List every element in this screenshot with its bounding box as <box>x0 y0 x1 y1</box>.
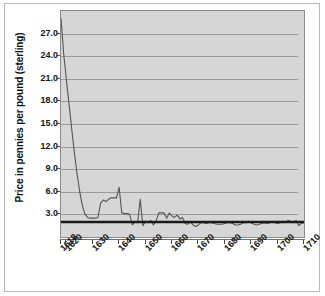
figure-container: Price in pennies per pound (sterling) 3.… <box>0 0 325 296</box>
y-axis-tick-label: 24.0 <box>26 51 58 60</box>
data-series-svg <box>61 11 304 237</box>
y-axis-tick-label: 3.0 <box>26 209 58 218</box>
plot-area <box>61 11 304 237</box>
x-axis-tick-labels: 1618162016301640165016601670168016901700… <box>60 240 310 290</box>
y-axis-tick-label: 21.0 <box>26 74 58 83</box>
y-axis-tick-label: 6.0 <box>26 187 58 196</box>
y-axis-tick-label: 18.0 <box>26 96 58 105</box>
y-axis-tick-label: 12.0 <box>26 142 58 151</box>
y-axis-tick-label: 27.0 <box>26 29 58 38</box>
plot-area-border <box>60 10 305 238</box>
y-axis-tick-labels: 3.06.09.012.015.018.021.024.027.0 <box>20 10 58 238</box>
price-line <box>61 19 304 227</box>
y-axis-tick-label: 9.0 <box>26 164 58 173</box>
y-axis-tick-label: 15.0 <box>26 119 58 128</box>
